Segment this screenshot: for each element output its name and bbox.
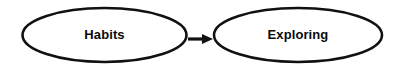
node-habits[interactable]: Habits [23, 8, 187, 62]
flow-diagram: Habits Exploring [0, 0, 398, 79]
edge-habits-to-exploring[interactable] [188, 34, 213, 44]
exploring-label: Exploring [268, 27, 329, 42]
diagram-canvas: Habits Exploring [0, 0, 398, 79]
arrow-head-icon [202, 34, 213, 44]
habits-label: Habits [84, 27, 124, 42]
node-exploring[interactable]: Exploring [214, 8, 382, 62]
